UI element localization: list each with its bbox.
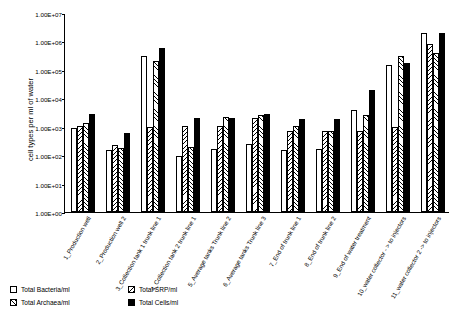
legend-swatch-icon <box>10 299 17 306</box>
bar <box>299 119 305 212</box>
bars-layer <box>65 14 449 212</box>
bar-group <box>380 14 415 212</box>
y-axis-tick-label: 1.00E+07 <box>35 11 65 18</box>
y-axis-tick-label: 1.00E+06 <box>35 39 65 46</box>
bar-group <box>415 14 450 212</box>
bar <box>334 119 340 212</box>
legend-swatch-icon <box>128 299 135 306</box>
y-axis-tick-label: 1.00E+04 <box>35 96 65 103</box>
bar <box>404 63 410 212</box>
legend-label: Total Archaea/ml <box>21 299 70 306</box>
legend-swatch-icon <box>10 286 17 293</box>
bar-group <box>345 14 380 212</box>
legend-item[interactable]: Total Bacteria/ml <box>10 286 128 293</box>
bar-group <box>65 14 100 212</box>
y-axis-tick-label: 1.00E+03 <box>35 124 65 131</box>
y-axis-tick-label: 1.00E+05 <box>35 67 65 74</box>
bar <box>89 114 95 212</box>
bar-group <box>240 14 275 212</box>
legend-swatch-icon <box>128 286 135 293</box>
legend-label: Total SRP/ml <box>139 286 177 293</box>
chart-root: cell types per ml of water 1.00E+001.00E… <box>0 0 467 323</box>
y-axis-tick-label: 1.00E+00 <box>35 210 65 217</box>
legend-item[interactable]: Total SRP/ml <box>128 286 246 293</box>
bar <box>439 33 445 212</box>
chart-legend: Total Bacteria/mlTotal SRP/mlTotal Archa… <box>10 283 250 309</box>
legend-item[interactable]: Total Archaea/ml <box>10 299 128 306</box>
bar <box>229 118 235 212</box>
legend-label: Total Cells/ml <box>139 299 178 306</box>
bar-group <box>310 14 345 212</box>
x-axis-tick-label: 1_Production well <box>61 215 91 261</box>
bar-group <box>135 14 170 212</box>
y-axis-tick <box>62 213 65 214</box>
x-axis-tick-label: 7_End of trunk line 1 <box>267 215 301 268</box>
bar <box>159 48 165 212</box>
y-axis-tick-label: 1.00E+01 <box>35 181 65 188</box>
x-axis-tick-label: 8_End of trunk line 2 <box>302 215 336 268</box>
bar-group <box>100 14 135 212</box>
bar <box>369 90 375 212</box>
plot-area: 1.00E+001.00E+011.00E+021.00E+031.00E+04… <box>64 14 449 213</box>
bar <box>124 133 130 212</box>
bar-group <box>205 14 240 212</box>
legend-label: Total Bacteria/ml <box>21 286 70 293</box>
bar <box>264 114 270 212</box>
y-axis-tick-label: 1.00E+02 <box>35 153 65 160</box>
bar-group <box>275 14 310 212</box>
x-axis-tick-label: 2_Production well 2 <box>93 215 126 265</box>
bar <box>194 118 200 212</box>
bar-group <box>170 14 205 212</box>
legend-item[interactable]: Total Cells/ml <box>128 299 246 306</box>
y-axis-title: cell types per ml of water <box>26 35 35 205</box>
x-axis-tick-label: 9_End of water treatment <box>331 215 372 279</box>
